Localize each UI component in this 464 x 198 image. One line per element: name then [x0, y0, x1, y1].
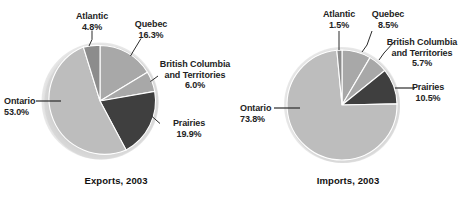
exports-label-prairies-pct: 19.9% [161, 129, 217, 140]
leader-line-quebec [362, 31, 372, 52]
leader-line-quebec [131, 39, 142, 57]
imports-label-prairies-name: Prairies [412, 82, 444, 92]
imports-label-quebec: Quebec 8.5% [364, 9, 412, 30]
exports-label-atlantic: Atlantic 4.8% [60, 11, 124, 32]
exports-label-bc-pct: 6.0% [155, 80, 235, 91]
exports-label-quebec: Quebec 16.3% [123, 19, 179, 40]
imports-label-bc-line1: British Columbia [387, 37, 457, 47]
imports-label-bc-pct: 5.7% [382, 58, 462, 69]
imports-label-atlantic: Atlantic 1.5% [310, 9, 368, 30]
imports-label-ontario-name: Ontario [240, 103, 271, 113]
exports-caption: Exports, 2003 [0, 175, 232, 186]
exports-label-atlantic-pct: 4.8% [60, 22, 124, 33]
imports-label-atlantic-name: Atlantic [323, 9, 355, 19]
imports-label-atlantic-pct: 1.5% [310, 20, 368, 31]
imports-label-quebec-pct: 8.5% [364, 20, 412, 31]
exports-label-bc-line1: British Columbia [160, 59, 230, 69]
imports-label-ontario: Ontario 73.8% [240, 103, 280, 124]
exports-label-bc: British Columbia and Territories 6.0% [155, 59, 235, 91]
exports-label-ontario-pct: 53.0% [4, 107, 44, 118]
exports-label-atlantic-name: Atlantic [76, 11, 108, 21]
imports-chart-panel: Atlantic 1.5% Quebec 8.5% British Columb… [232, 0, 464, 198]
imports-label-bc-line2: and Territories [382, 48, 462, 59]
exports-chart-panel: Atlantic 4.8% Quebec 16.3% British Colum… [0, 0, 232, 198]
pie-chart-figure: Atlantic 4.8% Quebec 16.3% British Colum… [0, 0, 464, 198]
imports-label-bc: British Columbia and Territories 5.7% [382, 37, 462, 69]
exports-label-ontario: Ontario 53.0% [4, 96, 44, 117]
exports-label-quebec-name: Quebec [135, 19, 167, 29]
exports-label-prairies-name: Prairies [173, 118, 205, 128]
exports-label-quebec-pct: 16.3% [123, 30, 179, 41]
exports-label-bc-line2: and Territories [155, 70, 235, 81]
exports-label-ontario-name: Ontario [4, 96, 35, 106]
imports-label-prairies-pct: 10.5% [402, 93, 454, 104]
imports-label-ontario-pct: 73.8% [240, 114, 280, 125]
imports-label-quebec-name: Quebec [372, 9, 404, 19]
imports-caption: Imports, 2003 [232, 175, 464, 186]
exports-label-prairies: Prairies 19.9% [161, 118, 217, 139]
imports-label-prairies: Prairies 10.5% [402, 82, 454, 103]
